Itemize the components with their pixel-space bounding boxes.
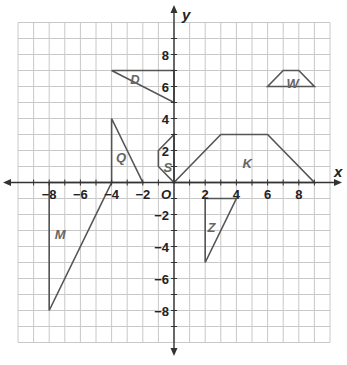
y-tick-label: −6 [154, 272, 169, 287]
origin-label: O [161, 187, 171, 202]
shape-label-d: D [130, 72, 140, 87]
shape-s [158, 135, 174, 183]
y-tick-label: −8 [154, 304, 169, 319]
x-tick-label: −2 [135, 187, 150, 202]
shape-label-k: K [243, 156, 254, 171]
y-tick-label: −4 [154, 240, 170, 255]
coordinate-plane: DQSKWZM x y O −8−6−4−22468−8−6−4−22468 [0, 0, 347, 365]
x-tick-label: 4 [233, 187, 241, 202]
shape-label-m: M [55, 227, 67, 242]
shape-label-w: W [286, 76, 300, 91]
x-tick-label: −4 [104, 187, 120, 202]
x-tick-label: 2 [202, 187, 209, 202]
x-axis-arrow-right-icon [334, 179, 342, 186]
y-axis-arrow-up-icon [171, 5, 178, 13]
shapes: DQSKWZM [49, 71, 314, 311]
y-axis-arrow-down-icon [171, 348, 178, 356]
x-axis-label: x [333, 163, 343, 180]
y-tick-label: −2 [154, 208, 169, 223]
labels: x y O −8−6−4−22468−8−6−4−22468 [42, 6, 343, 319]
y-tick-label: 2 [162, 144, 169, 159]
y-axis-label: y [181, 6, 191, 23]
x-axis-arrow-left-icon [3, 179, 11, 186]
shape-label-q: Q [116, 150, 126, 165]
x-tick-label: 6 [264, 187, 271, 202]
x-tick-label: −8 [42, 187, 57, 202]
y-tick-label: 4 [162, 112, 170, 127]
x-tick-label: −6 [73, 187, 88, 202]
y-tick-label: 6 [162, 80, 169, 95]
y-tick-label: 8 [162, 48, 169, 63]
shape-label-z: Z [206, 220, 216, 235]
x-tick-label: 8 [295, 187, 302, 202]
